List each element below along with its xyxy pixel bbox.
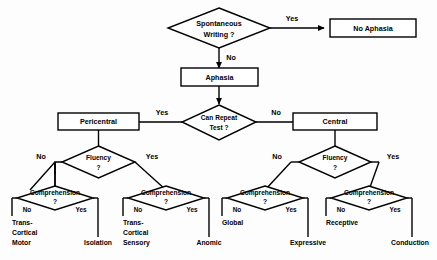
edge-label-comp1-no: No [23, 206, 32, 213]
aphasia-label: Aphasia [206, 73, 235, 82]
edge-fluency-left-yes: Yes [135, 152, 166, 190]
node-fluency-left[interactable]: Fluency ? [62, 146, 135, 178]
edge-repeat-yes: Yes [139, 108, 182, 122]
no-aphasia-label: No Aphasia [353, 24, 393, 33]
leaf-tcm-line2: Cortical [12, 229, 37, 236]
edge-label-comp3-no: No [233, 206, 242, 213]
node-no-aphasia[interactable]: No Aphasia [330, 19, 416, 37]
edge-label-comp4-yes: Yes [389, 206, 400, 213]
comprehension-2-label-line1: Comprehension [141, 189, 191, 197]
leaf-expressive: Expressive [290, 239, 326, 247]
node-spontaneous-writing[interactable]: Spontaneous Writing ? [168, 8, 270, 48]
leaf-trans-cortical-sensory: Trans- Cortical Sensory [123, 219, 150, 247]
edge-label-comp2-yes: Yes [186, 206, 197, 213]
spontaneous-writing-diamond[interactable] [168, 8, 270, 48]
edge-comp2-yes: Yes [186, 198, 209, 237]
edge-repeat-no: No [256, 108, 293, 122]
spontaneous-writing-label-line2: Writing ? [203, 30, 234, 39]
leaf-isolation-line1: Isolation [84, 239, 112, 246]
spontaneous-writing-label-line1: Spontaneous [196, 19, 242, 28]
comprehension-1-label-line2: ? [53, 198, 57, 205]
edge-label-comp3-yes: Yes [285, 206, 296, 213]
fluency-right-diamond[interactable] [299, 146, 371, 178]
leaf-tcs-line1: Trans- [123, 219, 143, 226]
edge-comp1-yes: Yes [75, 198, 98, 237]
aphasia-classification-flowchart: Spontaneous Writing ? Yes No Aphasia No … [0, 0, 437, 260]
node-pericentral[interactable]: Pericentral [58, 113, 139, 130]
edge-comp4-yes: Yes [389, 198, 412, 237]
edge-line-fluency-right-no [265, 162, 291, 190]
fluency-right-label-line1: Fluency [323, 154, 348, 162]
edge-comp3-yes: Yes [285, 198, 308, 237]
edge-label-comp1-yes: Yes [75, 206, 86, 213]
comprehension-4-label-line1: Comprehension [344, 189, 394, 197]
comprehension-2-label-line2: ? [164, 198, 168, 205]
edge-line-fl-no-diag [30, 162, 55, 190]
comprehension-4-label-line2: ? [367, 198, 371, 205]
edge-label-comp4-no: No [337, 206, 346, 213]
leaf-receptive-line1: Receptive [326, 219, 358, 227]
edge-label-fluency-left-no: No [36, 152, 46, 161]
leaf-tcm-line3: Motor [12, 239, 31, 246]
leaf-isolation: Isolation [84, 239, 112, 246]
fluency-left-label-line1: Fluency [86, 154, 111, 162]
can-repeat-test-diamond[interactable] [182, 105, 256, 140]
fluency-right-label-line2: ? [333, 164, 337, 171]
comprehension-3-label-line1: Comprehension [240, 189, 290, 197]
edge-label-repeat-no: No [271, 108, 281, 117]
leaf-conduction-line1: Conduction [391, 239, 429, 246]
pericentral-label: Pericentral [80, 117, 117, 126]
leaf-global: Global [222, 219, 243, 226]
edge-label-fluency-left-yes: Yes [146, 152, 158, 161]
leaf-anomic: Anomic [197, 239, 222, 246]
flowchart-canvas: Spontaneous Writing ? Yes No Aphasia No … [0, 0, 437, 260]
edge-fluency-right-no: No [265, 152, 299, 190]
comprehension-1-label-line1: Comprehension [30, 189, 80, 197]
central-label: Central [323, 117, 348, 126]
fluency-left-diamond[interactable] [62, 146, 135, 178]
edge-fluency-left-no: No [36, 152, 62, 190]
can-repeat-test-label-line2: Test ? [210, 124, 229, 131]
can-repeat-test-label-line1: Can Repeat [201, 114, 238, 122]
edge-line-fluency-left-yes [135, 162, 166, 190]
comprehension-3-label-line2: ? [263, 198, 267, 205]
edge-path-fluency-left-no-stub [55, 162, 62, 170]
leaf-trans-cortical-motor: Trans- Cortical Motor [12, 219, 37, 246]
fluency-left-label-line2: ? [96, 164, 100, 171]
edge-label-sw-yes: Yes [286, 14, 298, 23]
edge-label-comp2-no: No [134, 206, 143, 213]
edge-spontaneous-writing-yes: Yes [270, 14, 324, 28]
edge-fluency-right-yes: Yes [369, 152, 399, 190]
edge-label-sw-no: No [226, 53, 236, 62]
leaf-tcs-line3: Sensory [123, 239, 150, 247]
node-central[interactable]: Central [293, 113, 377, 130]
node-can-repeat-test[interactable]: Can Repeat Test ? [182, 105, 256, 140]
edge-spontaneous-writing-no: No [219, 48, 236, 68]
leaf-anomic-line1: Anomic [197, 239, 222, 246]
leaf-tcs-line2: Cortical [123, 229, 148, 236]
edge-label-fluency-right-no: No [272, 152, 282, 161]
leaf-receptive: Receptive [326, 219, 358, 227]
edge-label-fluency-right-yes: Yes [387, 152, 399, 161]
leaf-expressive-line1: Expressive [290, 239, 326, 247]
leaf-conduction: Conduction [391, 239, 429, 246]
leaf-global-line1: Global [222, 219, 243, 226]
node-aphasia[interactable]: Aphasia [181, 68, 258, 86]
edge-label-repeat-yes: Yes [156, 108, 168, 117]
node-fluency-right[interactable]: Fluency ? [299, 146, 371, 178]
leaf-tcm-line1: Trans- [12, 219, 32, 226]
